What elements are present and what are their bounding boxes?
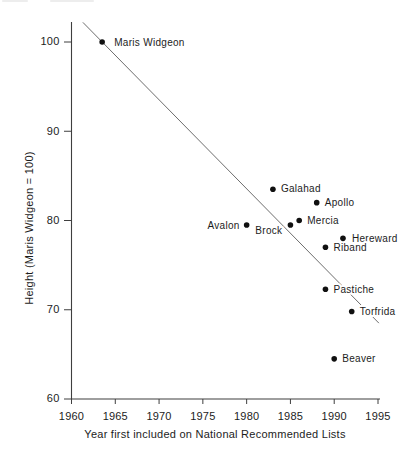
point-label-beaver: Beaver [342,353,376,364]
x-tick-label: 1980 [234,410,259,422]
data-point-avalon [244,222,250,228]
trend-line [83,22,379,323]
figure-canvas: 1960196519701975198019851990199560708090… [0,0,418,465]
point-label-galahad: Galahad [281,183,321,194]
point-label-torfrida: Torfrida [360,306,396,317]
x-axis-title: Year first included on National Recommen… [62,428,368,440]
y-tick-label: 80 [47,214,60,226]
data-point-maris-widgeon [99,39,105,45]
data-point-beaver [331,356,337,362]
data-point-brock [288,222,294,228]
data-point-pastiche [323,286,329,292]
point-label-apollo: Apollo [325,197,355,208]
data-point-torfrida [349,309,355,315]
point-label-maris-widgeon: Maris Widgeon [114,37,185,48]
data-point-mercia [296,218,302,224]
data-point-riband [323,244,329,250]
point-label-avalon: Avalon [207,220,239,231]
x-tick-label: 1985 [278,410,303,422]
x-tick-label: 1960 [59,410,84,422]
y-axis-title: Height (Maris Widgeon = 100) [23,151,35,304]
data-point-apollo [314,200,320,206]
x-tick-label: 1995 [365,410,390,422]
x-tick-label: 1990 [322,410,347,422]
point-label-mercia: Mercia [307,215,339,226]
point-label-riband: Riband [333,242,367,253]
y-tick-label: 60 [47,392,60,404]
y-tick-label: 100 [41,35,60,47]
data-point-galahad [270,186,276,192]
y-tick-label: 90 [47,125,60,137]
x-tick-label: 1975 [190,410,215,422]
y-tick-label: 70 [47,303,60,315]
data-point-hereward [340,236,346,242]
x-tick-label: 1965 [103,410,128,422]
point-label-pastiche: Pastiche [333,284,374,295]
x-tick-label: 1970 [146,410,171,422]
point-label-brock: Brock [255,225,283,236]
scatter-plot: 1960196519701975198019851990199560708090… [0,0,418,465]
